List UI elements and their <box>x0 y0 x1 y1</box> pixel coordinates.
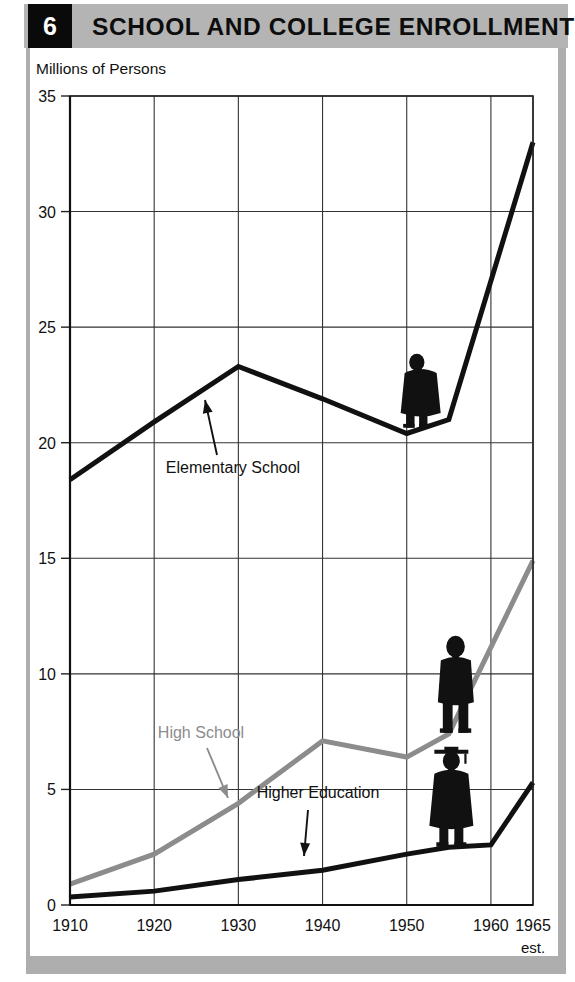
y-tick-label: 20 <box>38 435 56 452</box>
graduate-silhouette <box>429 747 473 847</box>
y-tick-label: 0 <box>47 897 56 914</box>
series-annotation: High School <box>158 724 244 741</box>
x-tick-note: est. <box>521 939 545 956</box>
y-tick-label: 25 <box>38 319 56 336</box>
series-annotation: Elementary School <box>166 459 300 476</box>
axis-layer: 0510152025303519101920193019401950196019… <box>38 88 551 956</box>
x-tick-label: 1950 <box>389 917 425 934</box>
x-tick-label: 1920 <box>136 917 172 934</box>
annotation-layer: Elementary SchoolHigh SchoolHigher Educa… <box>158 400 380 856</box>
y-tick-label: 30 <box>38 204 56 221</box>
y-tick-label: 35 <box>38 88 56 105</box>
x-tick-label: 1965 <box>515 917 551 934</box>
figures-layer <box>401 354 474 847</box>
series-annotation: Higher Education <box>257 784 380 801</box>
y-tick-label: 5 <box>47 781 56 798</box>
x-tick-label: 1940 <box>305 917 341 934</box>
x-tick-label: 1930 <box>221 917 257 934</box>
annotation-arrow-head <box>218 784 228 798</box>
y-tick-label: 15 <box>38 550 56 567</box>
annotation-arrow-head <box>203 400 213 414</box>
x-tick-label: 1960 <box>473 917 509 934</box>
series-line <box>70 142 533 479</box>
x-tick-label: 1910 <box>52 917 88 934</box>
y-tick-label: 10 <box>38 666 56 683</box>
